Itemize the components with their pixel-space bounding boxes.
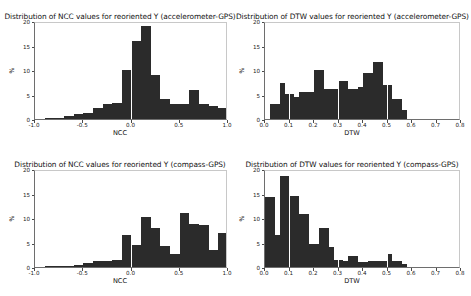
x-tick-label: 0.2 (309, 122, 318, 128)
histogram-bar (83, 263, 93, 267)
y-tick-label: 5 (242, 93, 260, 99)
histogram-bar (122, 235, 132, 267)
y-tick-mark (32, 47, 35, 48)
y-tick-mark (262, 195, 265, 196)
x-axis-label-ncc-compass-gps: NCC (4, 277, 236, 285)
chart-panel-dtw-accelerometer-gps: Distribution of DTW values for reoriente… (236, 12, 468, 146)
histogram-bar (112, 260, 122, 267)
y-tick-mark (32, 170, 35, 171)
x-tick-label: 0.1 (284, 270, 293, 276)
chart-title-ncc-compass-gps: Distribution of NCC values for reoriente… (4, 160, 236, 169)
chart-panel-ncc-compass-gps: Distribution of NCC values for reoriente… (4, 160, 236, 294)
histogram-bar (170, 104, 180, 119)
y-tick-mark (262, 47, 265, 48)
histogram-bar (209, 106, 219, 119)
y-tick-label: 20 (242, 167, 260, 173)
histogram-bar (64, 266, 74, 267)
y-axis-label-ncc-accelerometer-gps: % (8, 64, 15, 78)
y-tick-mark (32, 96, 35, 97)
y-tick-label: 15 (12, 44, 30, 50)
x-tick-label: 0.5 (382, 122, 391, 128)
y-tick-label: 0 (242, 265, 260, 271)
y-tick-label: 20 (12, 167, 30, 173)
plot-area-ncc-accelerometer-gps (34, 22, 227, 120)
y-tick-mark (32, 71, 35, 72)
histogram-bar (45, 266, 55, 267)
x-tick-label: 0.3 (333, 122, 342, 128)
y-tick-mark (32, 195, 35, 196)
histogram-bar (180, 104, 190, 119)
histogram-bar (54, 266, 64, 267)
histogram-bar (218, 233, 227, 267)
x-tick-label: 0.6 (407, 270, 416, 276)
plot-area-dtw-compass-gps (264, 170, 460, 268)
y-tick-label: 5 (12, 241, 30, 247)
histogram-bar (170, 254, 180, 267)
bar-series-ncc-compass-gps (35, 171, 226, 267)
y-tick-label: 15 (242, 44, 260, 50)
chart-title-dtw-accelerometer-gps: Distribution of DTW values for reoriente… (236, 12, 468, 21)
histogram-bar (209, 250, 219, 267)
x-tick-label: 0.6 (407, 122, 416, 128)
x-tick-label: 0.0 (260, 270, 269, 276)
x-tick-label: 0.7 (431, 122, 440, 128)
y-tick-mark (262, 170, 265, 171)
histogram-bar (103, 261, 113, 267)
chart-title-dtw-compass-gps: Distribution of DTW values for reoriente… (236, 160, 468, 169)
x-tick-label: 0.4 (358, 270, 367, 276)
plot-area-dtw-accelerometer-gps (264, 22, 460, 120)
x-tick-label: 1.0 (223, 270, 232, 276)
y-tick-label: 5 (12, 93, 30, 99)
histogram-figure: Distribution of NCC values for reoriente… (0, 0, 471, 296)
y-axis-label-dtw-compass-gps: % (238, 212, 245, 226)
x-axis-label-ncc-accelerometer-gps: NCC (4, 129, 236, 137)
x-tick-label: -0.5 (77, 122, 88, 128)
x-tick-label: 0.7 (431, 270, 440, 276)
x-tick-label: 0.0 (126, 122, 135, 128)
y-tick-label: 10 (12, 68, 30, 74)
x-tick-label: -0.5 (77, 270, 88, 276)
y-tick-mark (32, 268, 35, 269)
bar-series-dtw-accelerometer-gps (265, 23, 459, 119)
y-tick-mark (262, 219, 265, 220)
y-tick-mark (32, 244, 35, 245)
histogram-bar (103, 104, 113, 119)
histogram-bar (64, 116, 74, 119)
histogram-bar (180, 213, 190, 267)
bar-series-ncc-accelerometer-gps (35, 23, 226, 119)
y-tick-mark (262, 120, 265, 121)
x-tick-label: 0.5 (382, 270, 391, 276)
x-tick-label: -1.0 (29, 270, 40, 276)
x-tick-label: 0.3 (333, 270, 342, 276)
x-tick-label: 0.5 (174, 122, 183, 128)
x-tick-label: 0.0 (126, 270, 135, 276)
histogram-bar (74, 114, 84, 119)
y-axis-label-dtw-accelerometer-gps: % (238, 64, 245, 78)
histogram-bar (141, 217, 151, 267)
x-tick-label: 0.8 (456, 122, 465, 128)
histogram-bar (93, 108, 103, 119)
y-tick-mark (262, 268, 265, 269)
histogram-bar (45, 118, 55, 119)
x-tick-label: 0.4 (358, 122, 367, 128)
histogram-bar (54, 118, 64, 119)
plot-area-ncc-compass-gps (34, 170, 227, 268)
y-tick-mark (32, 22, 35, 23)
histogram-bar (199, 225, 209, 267)
chart-panel-ncc-accelerometer-gps: Distribution of NCC values for reoriente… (4, 12, 236, 146)
y-tick-mark (32, 219, 35, 220)
histogram-bar (93, 261, 103, 267)
histogram-bar (402, 264, 407, 267)
y-tick-label: 10 (242, 68, 260, 74)
y-tick-label: 10 (242, 216, 260, 222)
histogram-bar (122, 70, 132, 119)
histogram-bar (112, 103, 122, 119)
y-tick-mark (32, 120, 35, 121)
histogram-bar (141, 26, 151, 119)
y-tick-label: 10 (12, 216, 30, 222)
y-tick-label: 5 (242, 241, 260, 247)
x-tick-label: 1.0 (223, 122, 232, 128)
histogram-bar (83, 113, 93, 119)
x-axis-label-dtw-compass-gps: DTW (236, 277, 468, 285)
x-axis-label-dtw-accelerometer-gps: DTW (236, 129, 468, 137)
